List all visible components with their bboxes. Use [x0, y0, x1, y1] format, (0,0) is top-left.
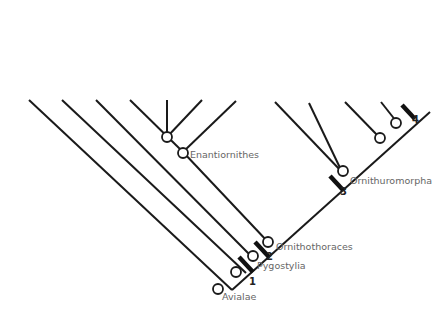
branches	[29, 100, 430, 290]
node-sinornis-group	[162, 132, 172, 142]
node-ornithuromorpha	[338, 166, 348, 176]
marker-1: 1	[249, 276, 256, 287]
cladogram: 1 2 3 4 Avialae Pygostylia Ornithothorac…	[0, 0, 441, 316]
marker-3: 3	[340, 186, 347, 197]
node-pygostylia-basal	[231, 267, 241, 277]
marker-4: 4	[412, 114, 419, 125]
clade-enantiornithes: Enantiornithes	[190, 149, 259, 160]
node-hesperornis-group	[375, 133, 385, 143]
clade-pygostylia: Pygostylia	[257, 260, 306, 271]
node-ornithothoraces	[263, 237, 273, 247]
clade-ornithothoraces: Ornithothoraces	[276, 241, 353, 252]
node-ichthyornis-group	[391, 118, 401, 128]
clade-avialae: Avialae	[222, 291, 256, 302]
clade-ornithuromorpha: Ornithuromorpha	[350, 175, 432, 186]
node-enantiornithes	[178, 148, 188, 158]
